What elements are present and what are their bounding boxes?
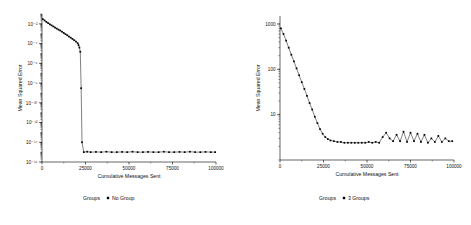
data-point-marker (163, 151, 165, 153)
series-line (43, 19, 215, 152)
data-point-marker (86, 151, 88, 153)
data-point-marker (81, 141, 83, 143)
data-point-marker (319, 128, 321, 130)
y-tick-label: 10⁻¹⁴ (26, 140, 38, 145)
x-tick-label: 75000 (166, 166, 179, 171)
data-point-marker (184, 151, 186, 153)
data-point-marker (311, 109, 313, 111)
data-point-marker (448, 140, 450, 142)
x-axis-label: Cumulative Messages Sent (335, 171, 399, 177)
data-point-marker (333, 140, 335, 142)
data-point-marker (396, 134, 398, 136)
data-point-marker (189, 151, 191, 153)
data-point-marker (403, 131, 405, 133)
data-point-marker (79, 47, 81, 49)
data-point-marker (451, 140, 453, 142)
data-point-marker (382, 136, 384, 138)
data-point-marker (410, 132, 412, 134)
data-point-marker (126, 151, 128, 153)
data-point-marker (142, 151, 144, 153)
data-point-marker (344, 142, 346, 144)
data-point-marker (46, 21, 48, 23)
y-tick-label: 10⁻¹² (26, 120, 38, 125)
y-tick-label: 10⁻⁸ (27, 81, 37, 86)
data-point-marker (337, 141, 339, 143)
data-point-marker (424, 134, 426, 136)
data-point-marker (52, 26, 54, 28)
data-point-marker (54, 27, 56, 29)
y-axis-label: Mean Squared Error (255, 64, 261, 111)
data-point-marker (330, 140, 332, 142)
legend-entry-label[interactable]: No Group (112, 195, 135, 201)
legend-marker (107, 197, 109, 199)
data-point-marker (51, 25, 53, 27)
x-tick-label: 50000 (361, 164, 374, 169)
data-point-marker (290, 54, 292, 56)
data-point-marker (283, 33, 285, 35)
data-point-marker (90, 151, 92, 153)
data-point-marker (106, 151, 108, 153)
legend-marker (343, 197, 345, 199)
data-point-marker (324, 136, 326, 138)
chart-panel-right: 1000100100250005000075000100000Cumulativ… (236, 0, 471, 225)
legend-title: Groups (83, 195, 100, 201)
data-point-marker (173, 151, 175, 153)
data-point-marker (75, 41, 77, 43)
data-point-marker (49, 23, 51, 25)
y-tick-label: 10⁻² (28, 22, 38, 27)
data-point-marker (327, 138, 329, 140)
data-point-marker (385, 132, 387, 134)
data-point-marker (357, 142, 359, 144)
y-tick-label: 10⁻¹⁰ (26, 101, 38, 106)
y-tick-label: 1000 (265, 22, 276, 27)
data-point-marker (205, 151, 207, 153)
chart-right-svg: 1000100100250005000075000100000Cumulativ… (236, 0, 471, 225)
data-point-marker (389, 138, 391, 140)
x-axis-label: Cumulative Messages Sent (97, 173, 161, 179)
data-point-marker (44, 20, 46, 22)
chart-panel-left: 10⁻²10⁻⁴10⁻⁶10⁻⁸10⁻¹⁰10⁻¹²10⁻¹⁴10⁻¹⁶0250… (0, 0, 235, 225)
data-point-marker (354, 142, 356, 144)
data-point-marker (375, 141, 377, 143)
y-axis-label: Mean Squared Error (17, 64, 23, 111)
data-point-marker (293, 60, 295, 62)
x-tick-label: 100000 (446, 164, 462, 169)
data-point-marker (78, 44, 80, 46)
data-point-marker (364, 142, 366, 144)
data-point-marker (285, 40, 287, 42)
data-point-marker (309, 102, 311, 104)
y-tick-label: 10⁻⁶ (27, 61, 37, 66)
data-point-marker (100, 151, 102, 153)
data-point-marker (116, 151, 118, 153)
data-point-marker (179, 151, 181, 153)
data-point-marker (47, 22, 49, 24)
data-point-marker (296, 68, 298, 70)
data-point-marker (111, 151, 113, 153)
data-point-marker (399, 140, 401, 142)
y-tick-label: 10⁻⁴ (27, 41, 37, 46)
x-tick-label: 50000 (123, 166, 136, 171)
data-point-marker (406, 141, 408, 143)
data-point-marker (298, 74, 300, 76)
data-point-marker (210, 151, 212, 153)
data-point-marker (306, 95, 308, 97)
data-point-marker (340, 141, 342, 143)
legend-entry-label[interactable]: 3 Groups (348, 195, 370, 201)
data-point-marker (350, 142, 352, 144)
data-point-marker (73, 39, 75, 41)
data-point-marker (199, 151, 201, 153)
legend-title: Groups (319, 195, 336, 201)
y-tick-label: 10⁻¹⁶ (26, 160, 38, 165)
data-point-marker (322, 133, 324, 135)
x-tick-label: 100000 (208, 166, 224, 171)
data-point-marker (371, 142, 373, 144)
data-point-marker (42, 18, 44, 20)
data-point-marker (70, 37, 72, 39)
data-point-marker (431, 138, 433, 140)
data-point-marker (214, 151, 216, 153)
data-point-marker (317, 122, 319, 124)
data-point-marker (434, 141, 436, 143)
data-point-marker (58, 29, 60, 31)
data-point-marker (427, 142, 429, 144)
data-point-marker (347, 142, 349, 144)
